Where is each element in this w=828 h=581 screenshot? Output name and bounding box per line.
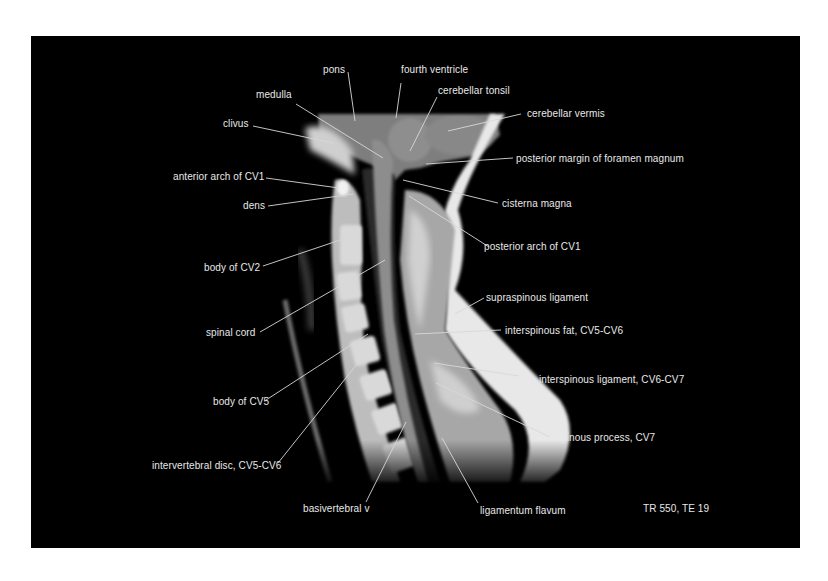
label-interspinous-fat: interspinous fat, CV5-CV6 xyxy=(505,325,623,337)
label-cisterna-magna: cisterna magna xyxy=(502,198,572,210)
label-ligamentum-flavum: ligamentum flavum xyxy=(480,505,566,517)
label-anterior-arch-cv1: anterior arch of CV1 xyxy=(173,171,265,183)
label-posterior-margin-foramen-magnum: posterior margin of foramen magnum xyxy=(516,153,684,165)
label-spinal-cord: spinal cord xyxy=(206,327,255,339)
mri-image xyxy=(0,0,828,581)
label-intervertebral-disc: intervertebral disc, CV5-CV6 xyxy=(152,460,282,472)
label-dens: dens xyxy=(243,200,265,212)
label-cerebellar-vermis: cerebellar vermis xyxy=(527,108,605,120)
label-cerebellar-tonsil: cerebellar tonsil xyxy=(438,85,510,97)
label-posterior-arch-cv1: posterior arch of CV1 xyxy=(484,241,581,253)
label-interspinous-ligament: interspinous ligament, CV6-CV7 xyxy=(539,374,684,386)
label-clivus: clivus xyxy=(223,118,249,130)
label-supraspinous-ligament: supraspinous ligament xyxy=(486,292,588,304)
label-medulla: medulla xyxy=(256,89,292,101)
label-pons: pons xyxy=(323,64,345,76)
label-body-cv5: body of CV5 xyxy=(213,396,269,408)
label-body-cv2: body of CV2 xyxy=(204,262,260,274)
sequence-parameters: TR 550, TE 19 xyxy=(643,503,709,515)
label-basivertebral-v: basivertebral v xyxy=(303,503,370,515)
label-spinous-process-cv7: spinous process, CV7 xyxy=(556,432,655,444)
label-fourth-ventricle: fourth ventricle xyxy=(401,64,468,76)
